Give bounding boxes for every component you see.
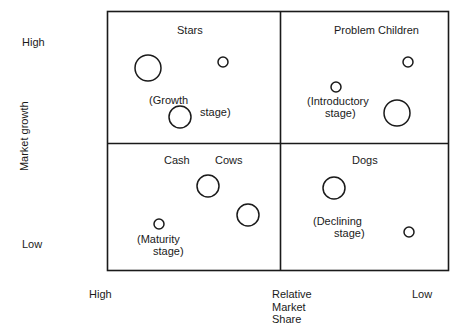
stage-label-growth-line-2: stage) [200,106,231,118]
bubble-problem-children-2 [331,82,341,92]
bubble-stars-1 [135,55,161,81]
quadrant-title-problem-children: Problem Children [334,24,419,36]
quadrant-title-cash: Cash [164,154,190,166]
quadrant-title-cows: Cows [215,154,243,166]
bubble-cash-cows-1 [197,175,219,197]
stage-label-introductory-line-2: stage) [325,107,356,119]
bubble-problem-children-3 [384,100,410,126]
stage-label-declining-line-1: (Declining [313,215,362,227]
bubble-cash-cows-2 [237,204,259,226]
bubble-stars-2 [218,57,228,67]
bubble-dogs-1 [323,177,345,199]
bubbles-layer [135,55,414,237]
bcg-matrix-diagram: High Low Market growth High Low Relative… [0,0,468,329]
matrix-outer-border [108,12,449,271]
stage-label-introductory-line-1: (Introductory [307,95,369,107]
stage-label-growth-line-1: (Growth [149,94,188,106]
stage-label-maturity-line-2: stage) [153,245,184,257]
bubble-problem-children-1 [403,57,413,67]
stage-label-maturity-line-1: (Maturity [137,233,180,245]
bubble-stars-3 [169,106,191,128]
bubble-dogs-2 [404,227,414,237]
stage-label-declining-line-2: stage) [334,227,365,239]
bubble-cash-cows-3 [154,219,164,229]
quadrant-title-stars: Stars [177,24,203,36]
quadrant-title-dogs: Dogs [352,154,378,166]
